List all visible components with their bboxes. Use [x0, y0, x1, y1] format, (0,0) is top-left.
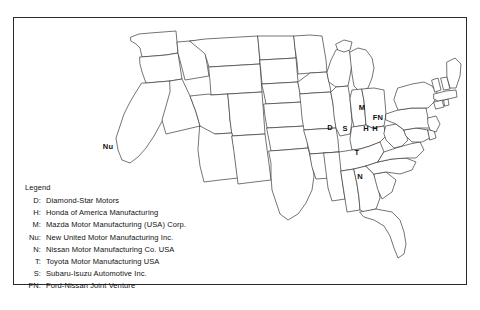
legend-label-d: Diamond-Star Motors [46, 196, 119, 205]
legend-abbr-fn: FN: [24, 281, 41, 290]
plant-marker-fn: FN [373, 113, 383, 122]
legend: Legend D: Diamond-Star Motors H: Honda o… [24, 183, 224, 294]
legend-label-h: Honda of America Manufacturing [46, 208, 158, 217]
legend-item-fn: FN: Ford-Nissan Joint Venture [24, 281, 224, 290]
plant-marker-n: N [357, 172, 363, 181]
legend-label-fn: Ford-Nissan Joint Venture [46, 281, 135, 290]
legend-title: Legend [24, 183, 224, 192]
legend-abbr-m: M: [24, 220, 41, 229]
legend-item-m: M: Mazda Motor Manufacturing (USA) Corp. [24, 220, 224, 229]
legend-abbr-d: D: [24, 196, 41, 205]
legend-abbr-h: H: [24, 208, 41, 217]
legend-item-d: D: Diamond-Star Motors [24, 196, 224, 205]
legend-label-nu: New United Motor Manufacturing Inc. [46, 233, 173, 242]
figure-root: Nu D S M FN H H T N Legend D: Diamond-St… [0, 0, 480, 310]
legend-item-n: N: Nissan Motor Manufacturing Co. USA [24, 245, 224, 254]
plant-marker-nu: Nu [103, 142, 113, 151]
legend-label-m: Mazda Motor Manufacturing (USA) Corp. [46, 220, 186, 229]
legend-abbr-s: S: [24, 269, 41, 278]
plant-marker-m: M [359, 103, 365, 112]
plant-marker-d: D [327, 123, 333, 132]
legend-item-h: H: Honda of America Manufacturing [24, 208, 224, 217]
legend-item-t: T: Toyota Motor Manufacturing USA [24, 257, 224, 266]
legend-abbr-nu: Nu: [24, 233, 41, 242]
plant-marker-t: T [355, 148, 360, 157]
legend-label-s: Subaru-Isuzu Automotive Inc. [46, 269, 147, 278]
legend-item-s: S: Subaru-Isuzu Automotive Inc. [24, 269, 224, 278]
plant-marker-s: S [342, 124, 347, 133]
legend-label-n: Nissan Motor Manufacturing Co. USA [46, 245, 174, 254]
legend-label-t: Toyota Motor Manufacturing USA [46, 257, 159, 266]
plant-marker-h-1: H [363, 124, 369, 133]
legend-item-nu: Nu: New United Motor Manufacturing Inc. [24, 233, 224, 242]
plant-marker-h-2: H [372, 124, 378, 133]
legend-abbr-n: N: [24, 245, 41, 254]
legend-abbr-t: T: [24, 257, 41, 266]
